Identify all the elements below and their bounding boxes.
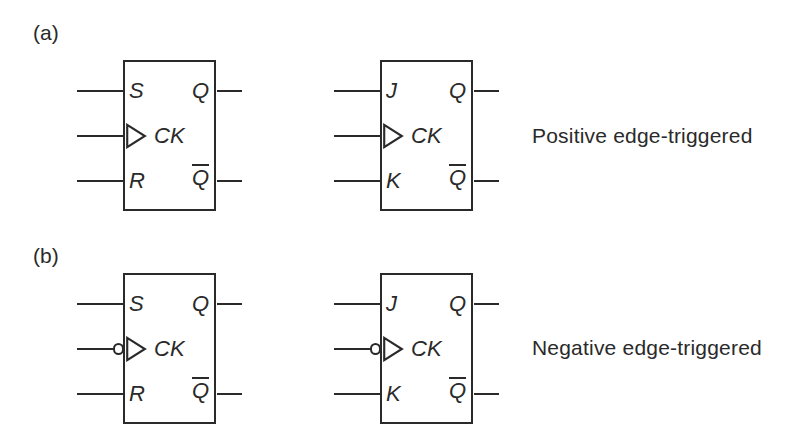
clock-input-line xyxy=(77,348,113,351)
input-line-j xyxy=(334,90,380,93)
input-label-s: S xyxy=(129,293,144,315)
clock-input-line xyxy=(334,348,370,351)
output-label-q: Q xyxy=(449,80,466,102)
output-label-qbar: Q xyxy=(192,164,209,189)
output-line-qbar xyxy=(474,393,499,396)
clock-label: CK xyxy=(154,338,185,360)
output-label-qbar: Q xyxy=(449,164,466,189)
flipflop-jk-negative: J CK K Q Q xyxy=(334,273,499,425)
inversion-bubble-icon xyxy=(370,343,382,355)
output-line-q xyxy=(217,90,242,93)
part-label-b: (b) xyxy=(33,243,59,268)
input-line-s xyxy=(77,303,123,306)
input-label-r: R xyxy=(129,383,145,405)
input-label-s: S xyxy=(129,80,144,102)
clock-edge-triangle-icon xyxy=(126,123,147,149)
clock-label: CK xyxy=(154,125,185,147)
clock-input-line xyxy=(334,135,380,138)
clock-edge-triangle-icon xyxy=(126,336,147,362)
input-line-s xyxy=(77,90,123,93)
input-line-k xyxy=(334,180,380,183)
input-label-r: R xyxy=(129,170,145,192)
input-line-r xyxy=(77,393,123,396)
flipflop-figure: (a) S CK R Q Q J CK K Q Q Positive edge-… xyxy=(0,0,788,448)
output-label-q: Q xyxy=(192,293,209,315)
clock-label: CK xyxy=(411,338,442,360)
input-line-k xyxy=(334,393,380,396)
output-line-qbar xyxy=(217,393,242,396)
input-label-j: J xyxy=(386,80,397,102)
output-line-q xyxy=(474,303,499,306)
output-line-q xyxy=(217,303,242,306)
part-label-a: (a) xyxy=(33,20,59,45)
input-label-k: K xyxy=(386,383,401,405)
clock-label: CK xyxy=(411,125,442,147)
flipflop-jk-positive: J CK K Q Q xyxy=(334,60,499,212)
input-label-k: K xyxy=(386,170,401,192)
flipflop-sr-negative: S CK R Q Q xyxy=(77,273,242,425)
input-label-j: J xyxy=(386,293,397,315)
output-line-qbar xyxy=(217,180,242,183)
clock-edge-triangle-icon xyxy=(383,123,404,149)
caption-positive: Positive edge-triggered xyxy=(532,123,753,148)
input-line-j xyxy=(334,303,380,306)
output-label-qbar: Q xyxy=(192,377,209,402)
output-label-qbar: Q xyxy=(449,377,466,402)
clock-input-line xyxy=(77,135,123,138)
inversion-bubble-icon xyxy=(113,343,125,355)
flipflop-sr-positive: S CK R Q Q xyxy=(77,60,242,212)
input-line-r xyxy=(77,180,123,183)
caption-negative: Negative edge-triggered xyxy=(532,335,762,360)
output-label-q: Q xyxy=(192,80,209,102)
output-line-q xyxy=(474,90,499,93)
output-label-q: Q xyxy=(449,293,466,315)
output-line-qbar xyxy=(474,180,499,183)
clock-edge-triangle-icon xyxy=(383,336,404,362)
